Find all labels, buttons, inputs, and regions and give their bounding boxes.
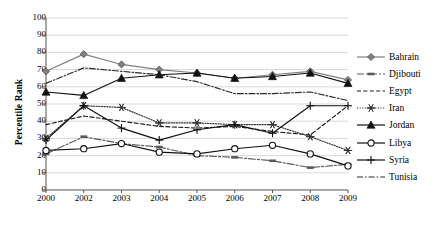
chart-root: Percentile Rank 0102030405060708090100 2… [0,0,440,235]
marker-diamond-legend-bahrain [367,53,374,60]
legend-symbol-tunisia-icon [356,169,386,185]
marker-circle-libya-2007 [269,142,275,148]
legend-symbol-djibouti-icon [356,66,386,82]
marker-circle-libya-2004 [156,149,162,155]
marker-diamond-bahrain-2002 [80,51,87,58]
marker-dashbar-djibouti-2004 [156,146,163,149]
legend-item-bahrain[interactable]: Bahrain [356,48,440,65]
legend-label-bahrain: Bahrain [386,52,419,62]
marker-circle-libya-2005 [194,151,200,157]
legend-label-tunisia: Tunisia [386,172,417,182]
marker-circle-libya-2008 [307,151,313,157]
marker-circle-libya-2000 [43,147,49,153]
legend-item-iran[interactable]: Iran [356,100,440,117]
marker-triangle-jordan-2000 [42,88,50,95]
marker-plus-syria-2003 [118,124,126,132]
legend-item-tunisia[interactable]: Tunisia [356,168,440,185]
series-libya [43,140,351,169]
marker-plus-legend-syria [367,156,375,164]
legend-label-jordan: Jordan [386,120,414,130]
marker-circle-libya-2009 [345,163,351,169]
legend-label-libya: Libya [386,138,411,148]
legend-label-djibouti: Djibouti [386,69,421,79]
marker-plus-syria-2006 [231,121,239,129]
series-jordan [42,69,352,99]
marker-plus-syria-2005 [193,126,201,134]
marker-diamond-bahrain-2000 [42,68,49,75]
marker-plus-syria-2004 [155,136,163,144]
legend-item-libya[interactable]: Libya [356,134,440,151]
legend-item-jordan[interactable]: Jordan [356,117,440,134]
marker-circle-libya-2002 [81,146,87,152]
legend-item-syria[interactable]: Syria [356,151,440,168]
marker-asterisk-iran-2009 [344,147,352,154]
marker-circle-legend-libya [368,139,374,145]
legend-item-egypt[interactable]: Egypt [356,82,440,99]
legend-symbol-jordan-icon [356,117,386,133]
marker-dashbar-djibouti-2007 [269,159,276,162]
legend-symbol-libya-icon [356,135,386,151]
series-bahrain [42,51,351,84]
legend-label-iran: Iran [386,103,404,113]
marker-plus-syria-2007 [269,129,277,137]
legend-symbol-iran-icon [356,100,386,116]
marker-dashbar-djibouti-2006 [231,156,238,159]
marker-asterisk-iran-2003 [117,104,125,111]
chart-legend: BahrainDjiboutiEgyptIranJordanLibyaSyria… [356,48,440,186]
marker-circle-libya-2003 [118,140,124,146]
legend-symbol-bahrain-icon [356,49,386,65]
marker-dashbar-djibouti-2008 [307,166,314,169]
marker-circle-libya-2006 [232,146,238,152]
legend-label-syria: Syria [386,155,409,165]
marker-diamond-bahrain-2003 [118,61,125,68]
legend-symbol-egypt-icon [356,83,386,99]
marker-dashbar-djibouti-2002 [80,135,87,138]
marker-plus-syria-2008 [306,102,314,110]
legend-symbol-syria-icon [356,152,386,168]
marker-dashbar-legend-djibouti [368,72,375,75]
marker-asterisk-iran-2005 [193,119,201,126]
marker-asterisk-legend-iran [367,105,375,112]
marker-asterisk-iran-2007 [268,121,276,128]
legend-label-egypt: Egypt [386,86,412,96]
legend-item-djibouti[interactable]: Djibouti [356,65,440,82]
